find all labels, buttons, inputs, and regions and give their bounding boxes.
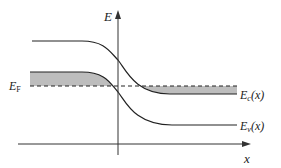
- energy-axis-label: E: [103, 9, 112, 24]
- left-shaded-region: [30, 72, 113, 86]
- conduction-band-label: Ec(x): [239, 88, 264, 103]
- position-axis-label: x: [243, 151, 250, 166]
- position-axis-arrow-icon: [242, 141, 251, 147]
- valence-band-label: Ev(x): [239, 119, 264, 134]
- band-diagram: E x EF Ec(x) Ev(x): [0, 0, 281, 168]
- fermi-level-label: EF: [8, 79, 21, 94]
- energy-axis-arrow-icon: [115, 10, 121, 19]
